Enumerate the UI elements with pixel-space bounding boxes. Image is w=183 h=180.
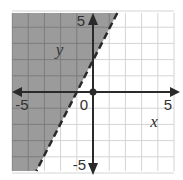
inequality-graph: -5 5 5 -5 0 x y <box>0 0 183 180</box>
y-axis-label: y <box>54 40 64 59</box>
y-tick-label-5: 5 <box>77 12 85 29</box>
origin-label: 0 <box>80 96 88 113</box>
y-tick-label-neg5: -5 <box>73 156 86 173</box>
x-tick-label-neg5: -5 <box>15 96 28 113</box>
x-axis-label: x <box>149 112 158 131</box>
x-tick-label-5: 5 <box>164 96 172 113</box>
origin-point <box>90 89 97 96</box>
